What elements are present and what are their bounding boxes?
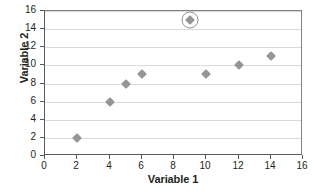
y-axis-tick <box>40 119 44 120</box>
x-axis-tick-label: 4 <box>97 161 121 171</box>
y-axis-tick <box>40 46 44 47</box>
gridline <box>45 65 301 66</box>
x-axis-tick-label: 0 <box>32 161 56 171</box>
gridline <box>45 138 301 139</box>
x-axis-tick <box>76 155 77 159</box>
gridline <box>45 84 301 85</box>
x-axis-tick-label: 14 <box>258 161 282 171</box>
y-axis-tick-label: 8 <box>6 78 36 88</box>
y-axis-tick <box>40 83 44 84</box>
y-axis-tick-label: 14 <box>6 23 36 33</box>
x-axis-tick-label: 16 <box>290 161 314 171</box>
x-axis-tick <box>238 155 239 159</box>
gridline <box>45 29 301 30</box>
y-axis-tick-label: 16 <box>6 5 36 15</box>
x-axis-tick-label: 10 <box>193 161 217 171</box>
x-axis-tick-label: 6 <box>129 161 153 171</box>
gridline <box>45 47 301 48</box>
x-axis-tick <box>302 155 303 159</box>
y-axis-tick-label: 0 <box>6 150 36 160</box>
y-axis-tick <box>40 137 44 138</box>
y-axis-tick <box>40 10 44 11</box>
outlier-highlight-circle <box>182 12 199 29</box>
gridline <box>45 102 301 103</box>
gridline <box>45 120 301 121</box>
x-axis-tick-label: 2 <box>64 161 88 171</box>
y-axis-tick-label: 12 <box>6 41 36 51</box>
scatter-plot-figure: Variable 2 0246810121416 0246810121416 V… <box>0 0 314 192</box>
x-axis-tick <box>205 155 206 159</box>
y-axis-tick-label: 4 <box>6 114 36 124</box>
y-axis-tick <box>40 28 44 29</box>
x-axis-tick <box>44 155 45 159</box>
x-axis-tick-label: 8 <box>161 161 185 171</box>
x-axis-tick <box>270 155 271 159</box>
y-axis-tick <box>40 101 44 102</box>
gridline <box>45 11 301 12</box>
y-axis-tick-label: 6 <box>6 96 36 106</box>
gridlines <box>45 11 301 154</box>
y-axis-tick-label: 2 <box>6 132 36 142</box>
x-axis-title: Variable 1 <box>44 173 302 185</box>
plot-area <box>44 10 302 155</box>
y-axis-tick <box>40 64 44 65</box>
x-axis-tick <box>109 155 110 159</box>
x-axis-tick <box>173 155 174 159</box>
x-axis-tick-label: 12 <box>226 161 250 171</box>
y-axis-tick-label: 10 <box>6 59 36 69</box>
x-axis-tick <box>141 155 142 159</box>
